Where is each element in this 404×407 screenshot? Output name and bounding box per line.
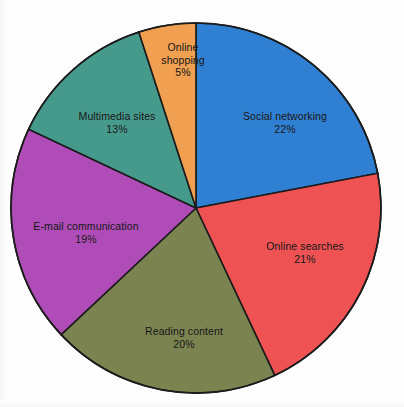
pie-chart: · · · · · · Social networking22%Online s… [0, 0, 404, 407]
pie-slices-group [11, 23, 381, 393]
pie-chart-canvas [0, 0, 404, 407]
